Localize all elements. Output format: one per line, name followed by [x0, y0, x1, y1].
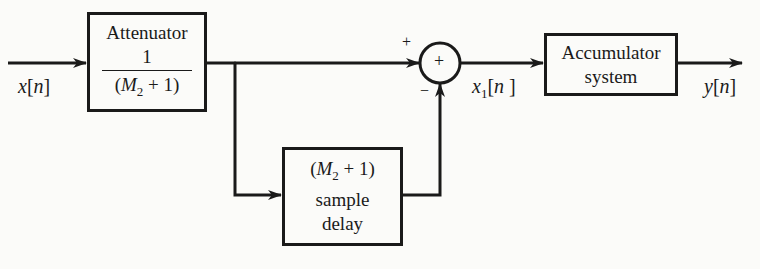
delay-line3: delay: [322, 212, 363, 236]
output-signal-label: y[n]: [704, 75, 736, 98]
attenuator-title: Attenuator: [106, 21, 187, 45]
branch-point: [234, 62, 237, 65]
accumulator-line2: system: [585, 65, 638, 89]
branch-to-delay-arrow: [235, 63, 281, 195]
summer-plus-symbol: +: [434, 51, 444, 72]
attenuator-block: Attenuator 1 (M2 + 1): [87, 12, 207, 112]
attenuator-denominator: (M2 + 1): [115, 73, 180, 104]
delay-amount: (M2 + 1): [310, 157, 375, 188]
minus-input-sign: −: [420, 82, 429, 100]
intermediate-signal-label: x1[n ]: [472, 75, 516, 102]
accumulator-line1: Accumulator: [561, 41, 660, 65]
fraction-bar: [102, 70, 192, 71]
delay-line2: sample: [316, 188, 370, 212]
accumulator-block: Accumulator system: [544, 33, 678, 96]
delay-to-summer-arrow: [402, 84, 440, 195]
input-signal-label: x[n]: [18, 75, 50, 98]
plus-input-sign: +: [402, 33, 411, 51]
delay-block: (M2 + 1) sample delay: [282, 147, 403, 246]
attenuator-numerator: 1: [142, 45, 152, 69]
